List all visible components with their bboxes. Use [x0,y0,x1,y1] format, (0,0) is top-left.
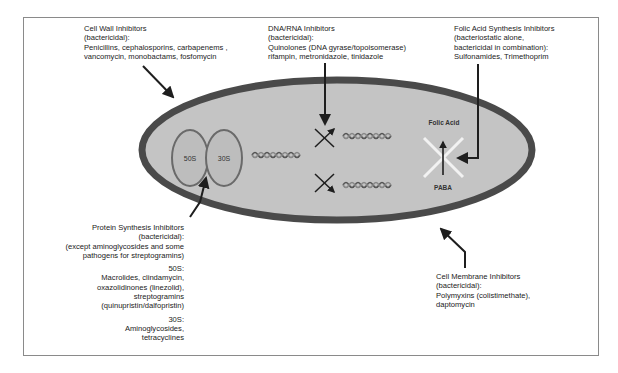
folic-acid-inhibitors-label: Folic Acid Synthesis Inhibitors (bacteri… [454,24,554,61]
protein-30s-1: Aminoglycosides, [56,324,184,333]
cell-wall-arrow [143,66,173,97]
protein-50s-4: (quinupristin/dalfopristin) [56,301,184,310]
cell-wall-type: (bactericidal): [84,33,228,42]
cell-membrane-inhibitors-label: Cell Membrane Inhibitors (bactericidal):… [436,272,530,309]
protein-type: (bactericidal): [56,232,184,241]
protein-30s-2: tetracyclines [56,333,184,342]
protein-50s-1: Macrolides, clindamycin, [56,273,184,282]
protein-50s-2: oxazolidinones (linezolid), [56,283,184,292]
cell-wall-drugs-1: Penicillins, cephalosporins, carbapenems… [84,43,228,52]
ribosome-30s-label: 30S [218,155,231,162]
cell-wall-title: Cell Wall Inhibitors [84,24,228,33]
cell-membrane-arrow [441,229,465,268]
dna-rna-drugs-1: Quinolones (DNA gyrase/topoisomerase) [268,43,406,52]
protein-title: Protein Synthesis Inhibitors [56,223,184,232]
membrane-type: (bactericidal): [436,281,530,290]
protein-note-1: (except aminoglycosides and some [56,242,184,251]
membrane-title: Cell Membrane Inhibitors [436,272,530,281]
membrane-drugs-1: Polymyxins (colistimethate), [436,291,530,300]
protein-synthesis-inhibitors-label: Protein Synthesis Inhibitors (bactericid… [56,223,184,343]
membrane-drugs-2: daptomycin [436,300,530,309]
protein-30s-heading: 30S: [56,315,184,324]
cell-wall-drugs-2: vancomycin, monobactams, fosfomycin [84,52,228,61]
ribosome-50s-label: 50S [184,155,197,162]
folic-acid-drugs: Sulfonamides, Trimethoprim [454,52,554,61]
cell-wall-inhibitors-label: Cell Wall Inhibitors (bactericidal): Pen… [84,24,228,61]
folic-acid-title: Folic Acid Synthesis Inhibitors [454,24,554,33]
dna-rna-type: (bactericidal): [268,33,406,42]
protein-50s-heading: 50S: [56,264,184,273]
dna-rna-title: DNA/RNA Inhibitors [268,24,406,33]
folic-acid-type-1: (bacteriostatic alone, [454,33,554,42]
protein-note-2: pathogens for streptogramins) [56,251,184,260]
folic-acid-type-2: bactericidal in combination): [454,43,554,52]
protein-50s-3: streptogramins [56,292,184,301]
paba-label: PABA [434,184,452,191]
folic-acid-label: Folic Acid [429,119,460,126]
dna-rna-inhibitors-label: DNA/RNA Inhibitors (bactericidal): Quino… [268,24,406,61]
dna-rna-drugs-2: rifampin, metronidazole, tinidazole [268,52,406,61]
